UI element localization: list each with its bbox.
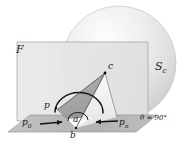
label-point-p: p [44,101,50,110]
label-sphere-sc: Sc [155,61,167,74]
label-sphere-main: S [155,60,163,73]
label-sphere-subscript: c [163,66,167,75]
point-p-marker [55,107,57,109]
point-b-marker [75,127,77,129]
label-apex-c: c [108,62,113,71]
label-plane-f: F [16,44,24,55]
label-p0-subscript: 0 [28,123,32,129]
label-point-b: b [70,131,76,140]
apex-point-c [104,72,107,75]
label-ppi-subscript: π [125,123,129,129]
label-point-p0: p0 [22,118,31,130]
label-point-a: a [73,115,78,124]
geometry-figure: F Sc c p p0 pπ a b θ = 90° [0,0,186,144]
label-angle-theta: θ = 90° [140,115,167,122]
label-point-ppi: pπ [119,118,129,130]
